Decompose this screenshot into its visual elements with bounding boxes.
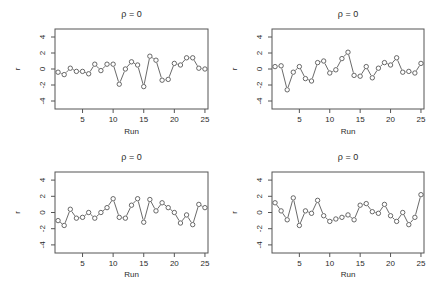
series-segment: [283, 213, 286, 217]
y-tick-label: -4: [255, 241, 264, 249]
data-point: [303, 76, 307, 80]
series-segment: [127, 64, 129, 67]
data-point: [273, 64, 277, 68]
y-tick-label: 0: [255, 210, 264, 215]
y-tick-label: -2: [255, 225, 264, 233]
data-point: [376, 66, 380, 70]
series-segment: [380, 64, 382, 66]
data-point: [321, 214, 325, 218]
series-segment: [138, 68, 143, 84]
data-point: [56, 218, 60, 222]
data-point: [388, 63, 392, 67]
y-tick-label: 4: [38, 177, 47, 182]
x-tick-label: 5: [80, 115, 85, 124]
data-point: [105, 205, 109, 209]
panel-top-right: ρ = 0Runr510152025-4-2024: [230, 9, 426, 136]
series-segment: [319, 203, 323, 213]
series-segment: [97, 214, 99, 216]
data-point: [297, 223, 301, 227]
x-axis-label: Run: [124, 127, 139, 136]
y-axis-label: r: [13, 67, 22, 70]
series-segment: [350, 217, 352, 218]
chart-title: ρ = 0: [121, 152, 141, 162]
data-point: [346, 213, 350, 217]
data-point: [388, 214, 392, 218]
data-point: [142, 84, 146, 88]
data-point: [364, 64, 368, 68]
data-point: [166, 77, 170, 81]
series-segment: [337, 61, 340, 67]
series-segment: [380, 207, 383, 211]
series-segment: [374, 71, 377, 76]
data-point: [93, 216, 97, 220]
series-segment: [355, 208, 359, 217]
y-tick-label: 2: [38, 194, 47, 199]
series-segment: [288, 201, 293, 217]
data-point: [80, 69, 84, 73]
series-segment: [404, 215, 408, 222]
data-point: [352, 73, 356, 77]
series-segment: [416, 66, 419, 71]
chart-title: ρ = 0: [338, 152, 358, 162]
series-segment: [114, 67, 118, 82]
y-tick-label: 0: [38, 210, 47, 215]
x-tick-label: 20: [170, 115, 179, 124]
data-point: [56, 70, 60, 74]
data-point: [394, 219, 398, 223]
series-segment: [65, 212, 69, 223]
series-segment: [90, 67, 93, 72]
data-point: [154, 209, 158, 213]
data-point: [346, 50, 350, 54]
x-tick-label: 25: [417, 115, 426, 124]
series-segment: [103, 66, 105, 68]
panel-bottom-left: ρ = 0Runr510152025-4-2024: [13, 152, 210, 279]
series-segment: [158, 205, 161, 209]
data-point: [303, 209, 307, 213]
series-segment: [109, 201, 112, 205]
y-tick-label: 2: [255, 50, 264, 55]
data-point: [382, 60, 386, 64]
data-point: [370, 209, 374, 213]
data-point: [111, 62, 115, 66]
x-tick-label: 15: [139, 259, 148, 268]
series-segment: [194, 60, 197, 66]
data-point: [184, 213, 188, 217]
data-point: [105, 62, 109, 66]
data-point: [370, 76, 374, 80]
x-tick-label: 25: [200, 259, 209, 268]
series-segment: [176, 215, 179, 221]
y-axis-label: r: [230, 211, 239, 214]
data-point: [86, 72, 90, 76]
data-point: [117, 215, 121, 219]
data-point: [279, 209, 283, 213]
data-point: [111, 197, 115, 201]
series-segment: [416, 197, 421, 214]
y-tick-label: 2: [255, 194, 264, 199]
x-tick-label: 25: [200, 115, 209, 124]
data-point: [191, 222, 195, 226]
y-tick-label: 4: [38, 34, 47, 39]
series-segment: [120, 72, 124, 82]
y-axis-label: r: [230, 67, 239, 70]
series-segment: [91, 214, 93, 216]
data-point: [285, 218, 289, 222]
data-point: [309, 211, 313, 215]
data-point: [315, 198, 319, 202]
x-tick-label: 5: [297, 259, 302, 268]
data-point: [184, 56, 188, 60]
x-tick-label: 5: [80, 259, 85, 268]
x-axis-label: Run: [341, 270, 356, 279]
series-segment: [386, 207, 389, 213]
data-point: [148, 54, 152, 58]
y-tick-label: 0: [255, 66, 264, 71]
series-segment: [294, 201, 299, 223]
data-point: [160, 201, 164, 205]
series-segment: [85, 214, 87, 215]
data-point: [148, 197, 152, 201]
data-point: [142, 220, 146, 224]
series-segment: [326, 218, 328, 220]
series-segment: [313, 203, 317, 211]
data-point: [419, 61, 423, 65]
series-segment: [332, 71, 333, 72]
data-point: [178, 221, 182, 225]
